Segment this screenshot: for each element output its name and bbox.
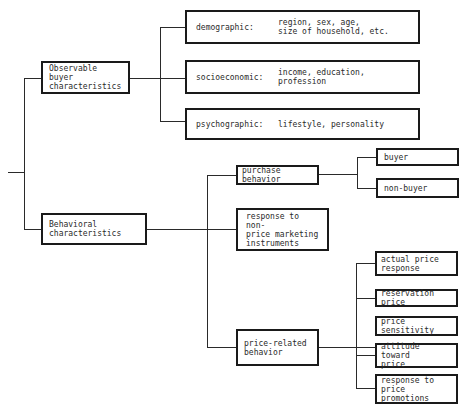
node-attitude-toward-price: attitude toward price <box>375 343 458 368</box>
node-detail: region, sex, age, size of household, etc… <box>278 18 389 36</box>
node-socioeconomic: socioeconomic: income, education, profes… <box>185 60 420 94</box>
node-label: purchase behavior <box>242 166 313 184</box>
node-response-to-price-promotions: response to price promotions <box>375 374 458 404</box>
node-demographic: demographic: region, sex, age, size of h… <box>185 10 420 44</box>
connector-to-non-buyer <box>357 188 376 189</box>
node-detail: lifestyle, personality <box>278 120 384 129</box>
connector-to-reservation <box>356 298 375 299</box>
connector-to-demographic <box>160 27 185 28</box>
connector-to-promotions <box>356 388 375 389</box>
node-label: response to price promotions <box>381 376 452 403</box>
node-behavioral-characteristics: Behavioral characteristics <box>41 213 147 245</box>
connector-behavioral-out <box>146 229 236 230</box>
node-price-sensitivity: price sensitivity <box>375 316 458 336</box>
node-label: price-related behavior <box>244 339 307 357</box>
node-label: Behavioral characteristics <box>49 220 121 238</box>
node-label: reservation price <box>381 289 452 307</box>
node-reservation-price: reservation price <box>375 289 458 307</box>
node-label: response to non- price marketing instrum… <box>246 212 319 248</box>
node-detail: income, education, profession <box>278 68 365 86</box>
connector-to-price-related <box>207 347 236 348</box>
connector-observable-trunk <box>160 27 161 122</box>
connector-price-related-out <box>318 347 375 348</box>
node-label: demographic: <box>196 23 278 32</box>
connector-purchase-trunk <box>357 157 358 189</box>
connector-to-purchase <box>207 175 236 176</box>
connector-price-related-trunk <box>356 263 357 389</box>
connector-root-trunk <box>24 78 25 230</box>
connector-root-to-observable <box>24 78 42 79</box>
node-label: Observable buyer characteristics <box>49 64 122 91</box>
connector-to-actual-price <box>356 263 375 264</box>
node-label: non-buyer <box>384 184 427 193</box>
connector-behavioral-trunk <box>207 175 208 348</box>
node-buyer: buyer <box>376 148 459 166</box>
connector-to-buyer <box>357 157 376 158</box>
connector-observable-out <box>129 78 185 79</box>
node-label: socioeconomic: <box>196 73 278 82</box>
node-label: actual price response <box>381 255 439 273</box>
connector-root-to-behavioral <box>24 229 42 230</box>
node-label: attitude toward price <box>381 342 452 369</box>
node-psychographic: psychographic: lifestyle, personality <box>185 108 420 140</box>
node-purchase-behavior: purchase behavior <box>236 165 319 185</box>
node-actual-price-response: actual price response <box>375 251 458 276</box>
connector-to-attitude <box>356 355 375 356</box>
node-price-related-behavior: price-related behavior <box>236 329 319 366</box>
node-non-buyer: non-buyer <box>376 178 459 198</box>
node-observable-buyer-characteristics: Observable buyer characteristics <box>41 61 130 94</box>
connector-to-psychographic <box>160 121 185 122</box>
connector-root-stub <box>8 172 25 173</box>
node-label: price sensitivity <box>381 317 452 335</box>
node-response-to-non-price: response to non- price marketing instrum… <box>236 208 329 251</box>
segmentation-tree-diagram: Observable buyer characteristics Behavio… <box>0 0 470 412</box>
connector-purchase-out <box>318 174 357 175</box>
node-label: buyer <box>384 153 408 162</box>
node-label: psychographic: <box>196 120 278 129</box>
